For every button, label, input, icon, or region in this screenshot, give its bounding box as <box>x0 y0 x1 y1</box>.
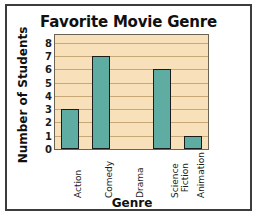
y-axis-tick-label: 3 <box>45 105 52 115</box>
y-axis-label-container: Number of Students <box>13 32 33 157</box>
x-axis-label: Genre <box>47 196 217 210</box>
bar <box>153 69 171 149</box>
y-axis-tick-label: 8 <box>45 39 52 49</box>
y-axis-tick-label: 6 <box>45 65 52 75</box>
x-axis-tick-label: Comedy <box>105 161 115 198</box>
bar <box>184 136 202 149</box>
gridline <box>55 149 208 150</box>
y-axis-tick-label: 7 <box>45 52 52 62</box>
y-axis-tick-label: 0 <box>45 145 52 155</box>
y-axis-label: Number of Students <box>16 26 30 163</box>
x-axis-tick-labels: ActionComedyDramaScienceFictionAnimation <box>54 152 209 200</box>
chart-title: Favorite Movie Genre <box>7 13 250 31</box>
x-axis-tick-label: Drama <box>136 168 146 198</box>
bar <box>92 56 110 149</box>
y-axis-tick-label: 4 <box>45 92 52 102</box>
bar <box>61 109 79 149</box>
plot-area <box>54 34 209 150</box>
y-axis-tick-labels: 012345678 <box>35 35 53 149</box>
x-axis-tick-label: ScienceFiction <box>171 163 190 198</box>
x-axis-tick-label: Action <box>74 170 84 198</box>
y-axis-tick-label: 2 <box>45 118 52 128</box>
y-axis-tick-label: 1 <box>45 132 52 142</box>
x-axis-tick-label: Animation <box>197 152 207 198</box>
y-axis-tick-label: 5 <box>45 79 52 89</box>
chart-figure-frame: Favorite Movie Genre Number of Students … <box>5 4 252 211</box>
bar-series <box>55 35 208 149</box>
